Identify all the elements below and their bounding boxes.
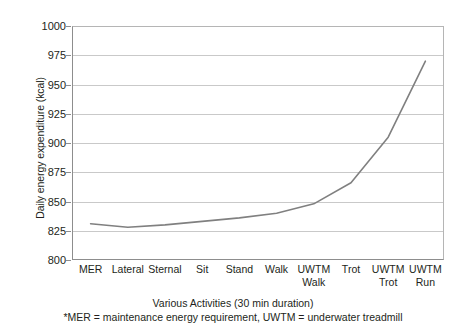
y-tick-label: 975 [4,50,66,61]
caption-block: Various Activities (30 min duration) *ME… [0,296,466,324]
y-tick-mark [66,114,71,115]
y-tick-label: 900 [4,138,66,149]
data-line-svg [72,26,444,260]
y-tick-label: 875 [4,167,66,178]
x-tick-label: MER [79,263,102,276]
y-tick-mark [66,85,71,86]
y-tick-mark [66,231,71,232]
x-tick-label: Walk [265,263,288,276]
y-tick-label: 800 [4,255,66,266]
x-tick-label: Lateral [112,263,144,276]
y-tick-label: 925 [4,108,66,119]
y-axis-tick-labels: 8008258508759009259509751000 [0,26,66,260]
x-tick-label: UWTMTrot [372,263,405,289]
y-tick-mark [66,172,71,173]
chart-figure: Daily energy expenditure (kcal) 80082585… [0,0,466,330]
y-tick-mark [66,26,71,27]
y-tick-mark [66,260,71,261]
chart-footnote: *MER = maintenance energy requirement, U… [0,310,466,324]
y-tick-label: 850 [4,196,66,207]
plot-area [72,26,444,260]
x-tick-label: Sternal [148,263,181,276]
x-tick-label: UWTMWalk [297,263,330,289]
y-tick-mark [66,202,71,203]
x-tick-label: Sit [196,263,208,276]
y-tick-label: 825 [4,225,66,236]
x-tick-label: Trot [342,263,360,276]
y-tick-mark [66,143,71,144]
x-axis-title: Various Activities (30 min duration) [0,296,466,310]
x-tick-label: Stand [226,263,253,276]
y-tick-label: 950 [4,79,66,90]
y-tick-label: 1000 [4,21,66,32]
y-tick-mark [66,55,71,56]
x-tick-label: UWTMRun [409,263,442,289]
data-line-series [91,61,426,227]
x-axis-tick-labels: MERLateralSternalSitStandWalkUWTMWalkTro… [72,263,444,297]
